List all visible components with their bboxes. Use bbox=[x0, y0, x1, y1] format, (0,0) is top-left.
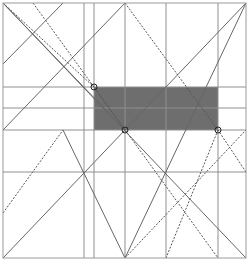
geometric-construction-diagram bbox=[0, 0, 249, 261]
dashed-diagonal-line bbox=[166, 130, 218, 258]
dashed-diagonal-line bbox=[218, 130, 246, 172]
dashed-diagonal-line bbox=[3, 3, 94, 87]
